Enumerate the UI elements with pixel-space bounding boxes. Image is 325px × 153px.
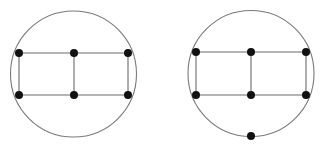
vertex-a — [192, 48, 200, 56]
left-graph — [11, 11, 137, 137]
vertex-d — [15, 91, 23, 99]
vertex-f — [124, 91, 132, 99]
vertex-c — [124, 49, 132, 57]
vertex-d — [192, 91, 200, 99]
vertex-e — [247, 91, 255, 99]
vertex-e — [70, 91, 78, 99]
vertex-g — [247, 132, 255, 140]
vertex-f — [302, 91, 310, 99]
right-graph — [188, 11, 314, 141]
vertex-b — [247, 48, 255, 56]
diagram-canvas — [0, 0, 325, 153]
vertex-b — [70, 49, 78, 57]
vertex-c — [302, 48, 310, 56]
vertex-a — [15, 49, 23, 57]
